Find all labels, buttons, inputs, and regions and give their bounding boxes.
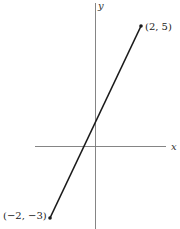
endpoint-lower-label: (−2, −3) xyxy=(3,210,47,221)
endpoint-lower xyxy=(48,216,52,220)
endpoint-upper xyxy=(139,24,143,28)
x-axis-label: x xyxy=(171,141,177,152)
endpoint-upper-label: (2, 5) xyxy=(145,21,172,32)
line-segment-graph: x y (2, 5) (−2, −3) xyxy=(0,0,180,229)
y-axis-label: y xyxy=(97,0,104,11)
